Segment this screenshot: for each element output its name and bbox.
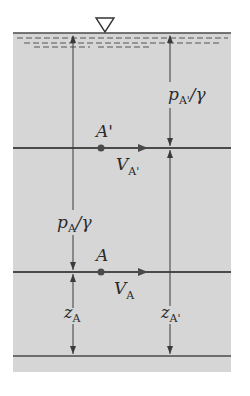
label-point-A: A <box>94 245 108 265</box>
point-A-dot <box>98 269 105 276</box>
fluid-pressure-diagram: pA'/γ A' VA' pA/γ A VA zA zA' <box>0 0 250 396</box>
free-surface-triangle-icon <box>96 18 114 32</box>
label-point-Aprime: A' <box>94 121 113 141</box>
point-Aprime-dot <box>98 145 105 152</box>
